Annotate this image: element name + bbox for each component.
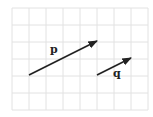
vector-q-label: q [113,68,121,79]
vector-p-label: p [50,44,58,55]
diagram-canvas [0,0,153,117]
